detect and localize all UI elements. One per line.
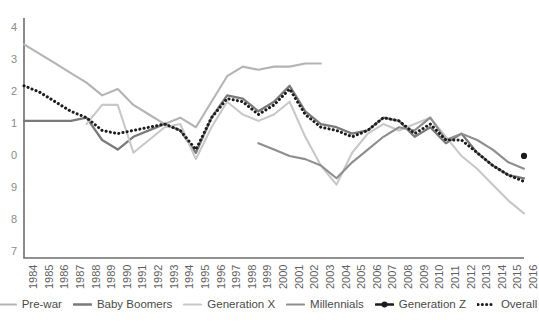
x-axis-tick: 2013	[481, 265, 492, 289]
x-axis-tick: 2004	[341, 265, 352, 289]
series-line-baby-boomers	[24, 86, 524, 178]
x-axis-tick: 1987	[75, 265, 86, 289]
y-axis-tick: 7	[0, 246, 17, 257]
legend-swatch-icon	[375, 299, 394, 310]
legend-item-overall[interactable]: Overall	[477, 298, 537, 310]
x-axis-tick: 2014	[497, 265, 508, 289]
legend-label: Pre-war	[22, 298, 62, 310]
x-axis-tick: 1991	[137, 265, 148, 289]
y-axis-tick: 3	[0, 54, 17, 65]
legend-swatch-icon	[73, 299, 92, 310]
x-axis-tick: 1984	[28, 265, 39, 289]
x-axis-tick: 2012	[466, 265, 477, 289]
legend-label: Baby Boomers	[97, 298, 172, 310]
x-axis-tick: 1990	[122, 265, 133, 289]
legend-item-baby-boomers[interactable]: Baby Boomers	[73, 298, 172, 310]
x-axis-tick: 1996	[216, 265, 227, 289]
x-axis-tick: 2016	[528, 265, 539, 289]
x-axis-tick: 1985	[44, 265, 55, 289]
x-axis-tick: 2009	[419, 265, 430, 289]
legend-label: Generation Z	[399, 298, 466, 310]
x-axis-tick: 2001	[294, 265, 305, 289]
series-line-pre-war	[24, 44, 321, 127]
x-axis-tick: 2002	[309, 265, 320, 289]
legend-swatch-icon	[183, 299, 202, 310]
x-axis-tick: 2005	[356, 265, 367, 289]
y-axis-tick: 1	[0, 118, 17, 129]
y-axis-tick: 9	[0, 182, 17, 193]
x-axis-tick: 2003	[325, 265, 336, 289]
x-axis-tick: 1992	[153, 265, 164, 289]
x-axis-tick: 1988	[91, 265, 102, 289]
x-axis-tick: 2007	[387, 265, 398, 289]
legend-swatch-icon	[477, 299, 496, 310]
y-axis-tick: 0	[0, 150, 17, 161]
legend-dot-marker-icon	[381, 301, 387, 307]
legend-label: Millennials	[310, 298, 364, 310]
legend-item-generation-z[interactable]: Generation Z	[375, 298, 466, 310]
x-axis-tick: 1999	[262, 265, 273, 289]
legend-label: Overall	[501, 298, 537, 310]
x-axis-tick: 1994	[184, 265, 195, 289]
y-axis-tick: 2	[0, 86, 17, 97]
legend-item-generation-x[interactable]: Generation X	[183, 298, 275, 310]
x-axis-tick: 2000	[278, 265, 289, 289]
x-axis-tick: 1997	[231, 265, 242, 289]
legend-swatch-icon	[286, 299, 305, 310]
chart-legend: Pre-warBaby BoomersGeneration XMillennia…	[0, 293, 535, 315]
x-axis-tick: 1986	[59, 265, 70, 289]
series-line-generation-x	[87, 102, 525, 214]
y-axis-tick: 8	[0, 214, 17, 225]
legend-item-millennials[interactable]: Millennials	[286, 298, 364, 310]
legend-item-pre-war[interactable]: Pre-war	[0, 298, 62, 310]
series-marker-generation-z	[521, 153, 527, 159]
y-axis-tick: 4	[0, 22, 17, 33]
x-axis-tick: 1995	[200, 265, 211, 289]
x-axis-tick: 2006	[372, 265, 383, 289]
legend-swatch-icon	[0, 299, 17, 310]
x-axis-tick: 1989	[106, 265, 117, 289]
x-axis-tick: 2010	[434, 265, 445, 289]
x-axis-tick: 2011	[450, 265, 461, 289]
legend-label: Generation X	[207, 298, 275, 310]
x-axis-tick: 2015	[512, 265, 523, 289]
x-axis-tick: 2008	[403, 265, 414, 289]
x-axis-tick: 1998	[247, 265, 258, 289]
x-axis-tick: 1993	[169, 265, 180, 289]
